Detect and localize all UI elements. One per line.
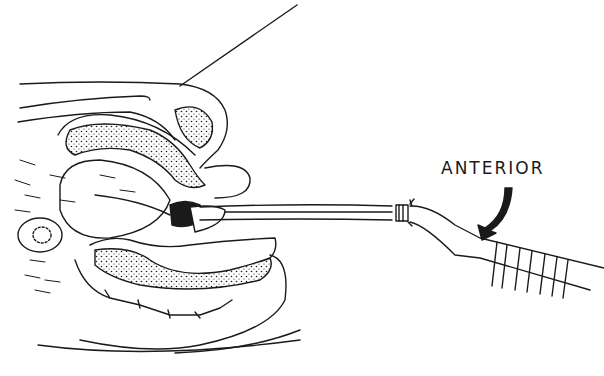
lower-organ xyxy=(95,249,271,289)
probe-handle xyxy=(410,206,604,268)
probe-bands xyxy=(396,205,408,221)
diagram-drawing xyxy=(0,0,604,376)
abdominal-wall-line xyxy=(180,5,297,86)
probe-shaft xyxy=(200,205,392,207)
small-circle xyxy=(18,218,62,252)
anterior-arrow xyxy=(478,188,512,240)
anatomical-diagram: ANTERIOR xyxy=(0,0,604,376)
central-organ xyxy=(60,160,170,238)
anterior-label: ANTERIOR xyxy=(441,158,545,178)
